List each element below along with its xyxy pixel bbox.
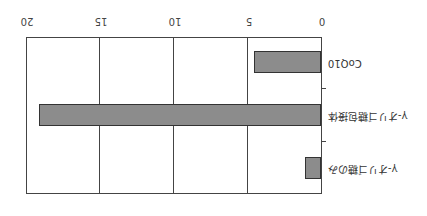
x-tick-label: 15	[86, 16, 116, 27]
x-tick-label: 20	[12, 16, 42, 27]
plot-area	[26, 37, 322, 194]
category-label: γ-オリゴ糖包接体	[328, 110, 408, 122]
bar-gamma-oligo-inclusion	[39, 104, 321, 126]
category-label: γ-オリゴ糖のみ	[328, 163, 398, 175]
bar-coq10	[254, 51, 321, 73]
x-tick-label: 0	[307, 16, 337, 27]
y-tick	[321, 141, 326, 142]
y-tick	[321, 88, 326, 89]
x-tick-label: 10	[160, 16, 190, 27]
category-label: CoQ10	[328, 57, 362, 69]
bar-gamma-oligo-only	[305, 157, 321, 179]
x-tick-label: 5	[234, 16, 264, 27]
chart-canvas: γ-オリゴ糖のみ γ-オリゴ糖包接体 CoQ10 0 5 10 15 20	[0, 0, 427, 216]
